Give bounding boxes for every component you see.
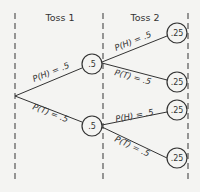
column-title-toss-2: Toss 2 — [130, 12, 160, 23]
probability-tree-diagram: Toss 1 Toss 2 P(H) = .5 P(T) = .5 P(H) =… — [0, 0, 200, 192]
node-ht-value: .25 — [171, 78, 184, 87]
node-hh-value: .25 — [171, 29, 184, 38]
node-toss1-tails-value: .5 — [88, 122, 96, 131]
branch-label-t-tails: P(T) = .5 — [113, 134, 151, 159]
node-th-value: .25 — [171, 106, 184, 115]
branch-label-root-heads: P(H) = .5 — [31, 60, 71, 84]
branch-label-t-heads: P(H) = .5 — [114, 107, 154, 124]
branch-label-h-tails: P(T) = .5 — [113, 67, 152, 86]
node-toss1-heads-value: .5 — [88, 60, 96, 69]
node-tt-value: .25 — [171, 154, 184, 163]
branch-label-root-tails: P(T) = .5 — [31, 102, 70, 125]
column-title-toss-1: Toss 1 — [45, 12, 75, 23]
